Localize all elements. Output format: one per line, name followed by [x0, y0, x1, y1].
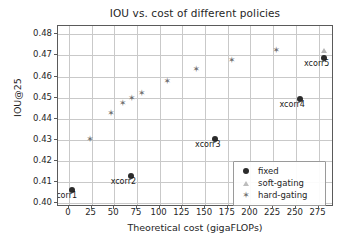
data-point-hard-gating: ✶: [138, 89, 145, 96]
x-tick-mark: [318, 206, 319, 209]
gridline-vertical: [69, 26, 70, 205]
legend-marker-triangle-icon: [238, 181, 254, 186]
y-tick-mark: [54, 54, 57, 55]
x-tick-mark: [227, 206, 228, 209]
y-tick-label: 0.40: [22, 197, 52, 207]
legend-marker-circle-icon: [238, 168, 254, 174]
x-tick-mark: [68, 206, 69, 209]
data-point-hard-gating: ✶: [163, 77, 170, 84]
y-tick-label: 0.43: [22, 134, 52, 144]
x-tick-mark: [181, 206, 182, 209]
x-tick-mark: [113, 206, 114, 209]
legend-label: soft-gating: [258, 178, 304, 188]
point-label-xcorr2: xcorr2: [111, 177, 136, 186]
legend-marker-star-icon: ✶: [238, 191, 254, 200]
point-label-xcorr4: xcorr4: [280, 100, 305, 109]
x-tick-mark: [204, 206, 205, 209]
gridline-vertical: [182, 26, 183, 205]
gridline-vertical: [205, 26, 206, 205]
y-axis-label: IOU@25: [12, 53, 23, 143]
y-tick-mark: [54, 97, 57, 98]
chart-legend[interactable]: fixedsoft-gating✶hard-gating: [233, 161, 326, 206]
chart-title: IOU vs. cost of different policies: [57, 7, 333, 19]
legend-label: fixed: [258, 166, 279, 176]
data-point-hard-gating: ✶: [272, 46, 279, 53]
y-tick-label: 0.42: [22, 155, 52, 165]
gridline-horizontal: [58, 55, 332, 56]
legend-label: hard-gating: [258, 190, 308, 200]
y-tick-label: 0.46: [22, 71, 52, 81]
point-label-xcorr5: xcorr5: [304, 59, 329, 68]
data-point-hard-gating: ✶: [193, 66, 200, 73]
legend-item-fixed[interactable]: fixed: [238, 165, 321, 177]
data-point-hard-gating: ✶: [119, 99, 126, 106]
legend-item-soft-gating[interactable]: soft-gating: [238, 177, 321, 189]
figure-canvas: IOU vs. cost of different policies ✶✶✶✶✶…: [0, 0, 347, 247]
y-tick-label: 0.45: [22, 92, 52, 102]
point-label-xcorr3: xcorr3: [195, 140, 220, 149]
data-point-soft-gating: [321, 48, 327, 53]
y-tick-mark: [54, 118, 57, 119]
y-tick-label: 0.41: [22, 176, 52, 186]
y-tick-label: 0.44: [22, 113, 52, 123]
data-point-hard-gating: ✶: [128, 94, 135, 101]
gridline-vertical: [137, 26, 138, 205]
data-point-hard-gating: ✶: [228, 57, 235, 64]
x-tick-mark: [295, 206, 296, 209]
x-axis-label: Theoretical cost (gigaFLOPs): [57, 222, 333, 233]
gridline-horizontal: [58, 119, 332, 120]
y-tick-mark: [54, 181, 57, 182]
gridline-horizontal: [58, 77, 332, 78]
legend-item-hard-gating[interactable]: ✶hard-gating: [238, 189, 321, 201]
x-tick-mark: [91, 206, 92, 209]
x-tick-mark: [249, 206, 250, 209]
y-tick-mark: [54, 139, 57, 140]
gridline-vertical: [92, 26, 93, 205]
data-point-hard-gating: ✶: [107, 109, 114, 116]
y-tick-mark: [54, 76, 57, 77]
y-tick-label: 0.48: [22, 28, 52, 38]
x-tick-mark: [159, 206, 160, 209]
y-tick-mark: [54, 160, 57, 161]
y-tick-mark: [54, 202, 57, 203]
y-tick-mark: [54, 33, 57, 34]
data-point-hard-gating: ✶: [86, 136, 93, 143]
y-tick-label: 0.47: [22, 49, 52, 59]
x-tick-mark: [272, 206, 273, 209]
point-label-xcorr1: xcorr1: [57, 191, 77, 200]
gridline-vertical: [160, 26, 161, 205]
x-tick-mark: [136, 206, 137, 209]
gridline-horizontal: [58, 34, 332, 35]
gridline-vertical: [228, 26, 229, 205]
gridline-horizontal: [58, 98, 332, 99]
